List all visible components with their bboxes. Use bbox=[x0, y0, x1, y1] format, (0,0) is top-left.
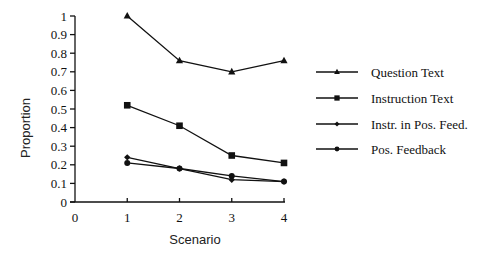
square-marker-icon bbox=[228, 152, 235, 159]
y-tick-label: 0.4 bbox=[51, 120, 68, 135]
legend-label: Instr. in Pos. Feed. bbox=[371, 117, 468, 132]
triangle-marker-icon bbox=[280, 57, 287, 64]
circle-marker-icon bbox=[229, 173, 235, 179]
series-line bbox=[127, 157, 284, 181]
y-axis-title: Proportion bbox=[18, 98, 33, 158]
y-tick-label: 0.1 bbox=[51, 176, 67, 191]
series-line bbox=[127, 105, 284, 163]
x-tick-label: 2 bbox=[176, 210, 183, 225]
triangle-marker-icon bbox=[176, 57, 183, 64]
x-tick-label: 3 bbox=[229, 210, 236, 225]
square-marker-icon bbox=[176, 122, 183, 129]
series-question-text bbox=[124, 12, 288, 74]
triangle-marker-icon bbox=[124, 12, 131, 19]
y-tick-label: 0.9 bbox=[51, 27, 67, 42]
plot-area bbox=[124, 12, 288, 185]
circle-marker-icon bbox=[335, 147, 340, 152]
y-tick-label: 0.3 bbox=[51, 139, 67, 154]
y-tick-label: 0.5 bbox=[51, 102, 67, 117]
legend-item: Instruction Text bbox=[316, 91, 454, 106]
legend-item: Question Text bbox=[316, 65, 444, 80]
legend-label: Pos. Feedback bbox=[371, 142, 447, 157]
series-line bbox=[127, 163, 284, 182]
circle-marker-icon bbox=[124, 160, 130, 166]
y-tick-label: 0.7 bbox=[51, 64, 68, 79]
series-line bbox=[127, 16, 284, 72]
legend-item: Pos. Feedback bbox=[316, 142, 447, 157]
y-tick-label: 0.6 bbox=[51, 83, 68, 98]
y-axis: 00.10.20.30.40.50.60.70.80.91 bbox=[51, 9, 75, 210]
legend: Question TextInstruction TextInstr. in P… bbox=[316, 65, 468, 157]
circle-marker-icon bbox=[281, 179, 287, 185]
square-marker-icon bbox=[334, 95, 339, 100]
y-tick-label: 0.2 bbox=[51, 157, 67, 172]
line-chart: 00.10.20.30.40.50.60.70.80.91 01234 Prop… bbox=[0, 0, 493, 256]
square-marker-icon bbox=[124, 102, 131, 109]
x-axis-title: Scenario bbox=[169, 232, 220, 247]
x-tick-label: 0 bbox=[72, 210, 79, 225]
series-instr-in-pos-feed bbox=[124, 154, 287, 185]
diamond-marker-icon bbox=[334, 121, 339, 126]
x-tick-label: 4 bbox=[281, 210, 288, 225]
y-tick-label: 0 bbox=[61, 195, 68, 210]
circle-marker-icon bbox=[177, 166, 183, 172]
y-tick-label: 0.8 bbox=[51, 46, 67, 61]
y-tick-label: 1 bbox=[61, 9, 68, 24]
x-tick-label: 1 bbox=[124, 210, 131, 225]
legend-label: Instruction Text bbox=[371, 91, 454, 106]
legend-label: Question Text bbox=[371, 65, 444, 80]
diamond-marker-icon bbox=[124, 154, 130, 160]
square-marker-icon bbox=[281, 160, 288, 167]
x-axis: 01234 bbox=[70, 198, 288, 225]
legend-item: Instr. in Pos. Feed. bbox=[316, 117, 468, 132]
series-instruction-text bbox=[124, 102, 287, 166]
